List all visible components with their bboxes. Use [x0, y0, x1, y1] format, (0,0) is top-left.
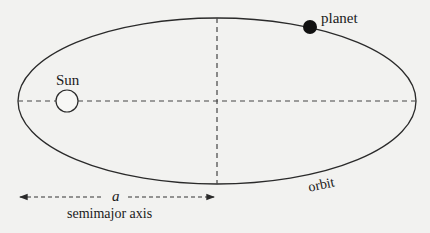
- planet-label: planet: [321, 11, 358, 26]
- sun-label: Sun: [56, 73, 79, 88]
- sun-icon: [56, 90, 78, 112]
- diagram-canvas: [0, 0, 430, 233]
- orbit-diagram: Sun planet a semimajor axis orbit: [0, 0, 430, 233]
- planet-icon: [303, 20, 317, 34]
- semimajor-axis-label: semimajor axis: [67, 207, 152, 221]
- a-label: a: [112, 189, 120, 204]
